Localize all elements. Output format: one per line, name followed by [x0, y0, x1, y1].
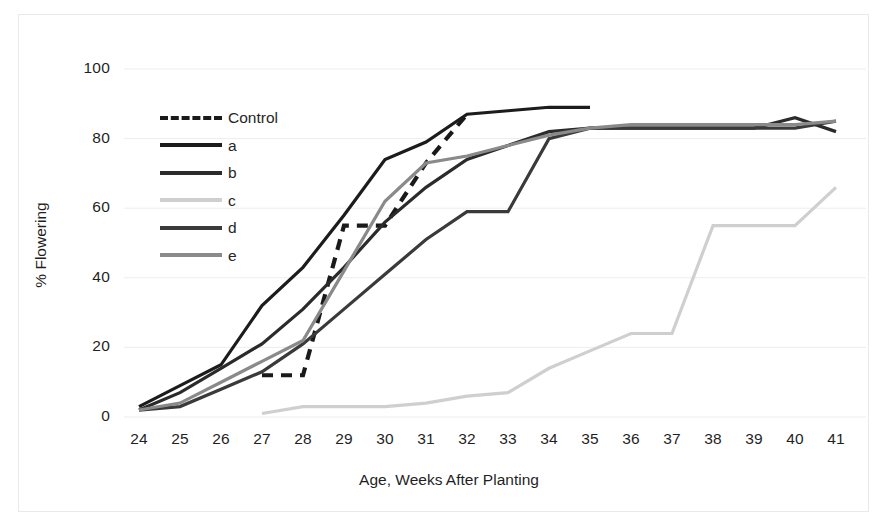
legend-item-b[interactable]: b	[160, 159, 278, 187]
x-tick-label: 33	[488, 430, 528, 448]
x-tick-label: 40	[775, 430, 815, 448]
legend-item-c[interactable]: c	[160, 187, 278, 215]
x-tick-label: 29	[324, 430, 364, 448]
y-tick-label: 20	[64, 337, 110, 355]
x-tick-label: 38	[693, 430, 733, 448]
x-tick-label: 34	[529, 430, 569, 448]
legend-label: d	[228, 220, 237, 236]
y-tick-label: 40	[64, 268, 110, 286]
legend-item-control[interactable]: Control	[160, 104, 278, 132]
legend-label: c	[228, 193, 236, 209]
x-tick-label: 30	[365, 430, 405, 448]
legend-swatch-control-icon	[160, 116, 222, 120]
x-tick-label: 37	[652, 430, 692, 448]
legend-swatch-a-icon	[160, 143, 222, 147]
x-tick-label: 26	[201, 430, 241, 448]
x-tick-label: 25	[160, 430, 200, 448]
chart-figure: 020406080100 242526272829303132333435363…	[0, 0, 887, 528]
x-tick-label: 32	[447, 430, 487, 448]
y-tick-label: 60	[64, 198, 110, 216]
y-tick-label: 100	[64, 59, 110, 77]
legend-item-d[interactable]: d	[160, 214, 278, 242]
chart-legend: Controlabcde	[160, 104, 278, 269]
series-line-c	[262, 187, 836, 413]
legend-item-a[interactable]: a	[160, 132, 278, 160]
x-tick-label: 24	[119, 430, 159, 448]
legend-label: e	[228, 248, 237, 264]
legend-swatch-e-icon	[160, 253, 222, 257]
x-tick-label: 27	[242, 430, 282, 448]
legend-item-e[interactable]: e	[160, 242, 278, 270]
legend-swatch-c-icon	[160, 198, 222, 202]
x-tick-label: 39	[734, 430, 774, 448]
x-tick-label: 31	[406, 430, 446, 448]
y-axis-title: % Flowering	[32, 170, 50, 320]
x-tick-label: 35	[570, 430, 610, 448]
x-tick-label: 41	[816, 430, 856, 448]
legend-label: a	[228, 138, 237, 154]
x-tick-label: 28	[283, 430, 323, 448]
legend-swatch-b-icon	[160, 171, 222, 175]
legend-label: Control	[228, 110, 278, 126]
x-tick-label: 36	[611, 430, 651, 448]
chart-plot-area	[0, 0, 887, 528]
y-tick-label: 0	[64, 407, 110, 425]
y-tick-label: 80	[64, 129, 110, 147]
x-axis-title: Age, Weeks After Planting	[299, 471, 599, 489]
legend-swatch-d-icon	[160, 226, 222, 230]
legend-label: b	[228, 165, 237, 181]
